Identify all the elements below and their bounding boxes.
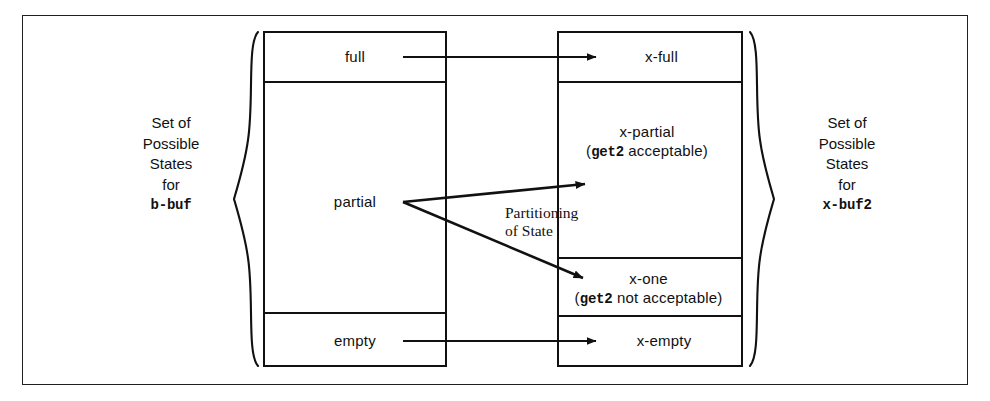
- right-cell-x-partial-label: x-partial: [551, 122, 743, 141]
- right-cell-x-one-note: (get2 not acceptable): [551, 288, 746, 309]
- right-caption-buffer-name: x-buf2: [772, 195, 922, 216]
- left-brace: [234, 32, 258, 366]
- left-cell-empty: empty: [263, 331, 447, 350]
- left-caption-line-1: Set of: [108, 113, 234, 134]
- left-caption-line-4: for: [108, 175, 234, 196]
- right-caption: Set of Possible States for x-buf2: [772, 113, 922, 216]
- right-box-divider-2: [557, 257, 743, 259]
- right-cell-x-empty-label: x-empty: [637, 332, 692, 349]
- left-cell-partial-label: partial: [334, 193, 376, 210]
- left-cell-full-label: full: [345, 48, 365, 65]
- right-cell-x-full-label: x-full: [645, 48, 678, 65]
- right-caption-line-4: for: [772, 175, 922, 196]
- left-caption-line-2: Possible: [108, 134, 234, 155]
- right-cell-x-one-label: x-one: [551, 269, 746, 288]
- left-caption-buffer-name: b-buf: [108, 195, 234, 216]
- partition-note-line-1: Partitioning: [505, 204, 635, 222]
- right-box-divider-1: [557, 81, 743, 83]
- right-cell-x-empty: x-empty: [585, 331, 743, 350]
- diagram-figure: full partial empty x-full x-partial (get…: [0, 0, 990, 401]
- left-caption-line-3: States: [108, 154, 234, 175]
- right-cell-x-partial: x-partial (get2 acceptable): [551, 122, 743, 162]
- partition-note: Partitioning of State: [505, 204, 635, 240]
- x-one-note-mono: get2: [580, 291, 613, 307]
- right-cell-x-partial-note: (get2 acceptable): [551, 141, 743, 162]
- right-brace: [750, 32, 774, 366]
- right-caption-line-1: Set of: [772, 113, 922, 134]
- x-partial-note-rest: acceptable): [624, 142, 708, 159]
- left-cell-full: full: [263, 47, 447, 66]
- x-one-note-rest: not acceptable): [613, 289, 723, 306]
- right-state-box: [557, 31, 743, 367]
- left-cell-partial: partial: [263, 192, 447, 211]
- partition-note-line-2: of State: [505, 222, 635, 240]
- left-box-divider-1: [263, 81, 447, 83]
- x-partial-note-mono: get2: [591, 144, 624, 160]
- right-box-divider-3: [557, 315, 743, 317]
- right-cell-x-full: x-full: [580, 47, 743, 66]
- right-cell-x-one: x-one (get2 not acceptable): [551, 269, 746, 309]
- left-box-divider-2: [263, 312, 447, 314]
- right-caption-line-2: Possible: [772, 134, 922, 155]
- right-caption-line-3: States: [772, 154, 922, 175]
- left-caption: Set of Possible States for b-buf: [108, 113, 234, 216]
- left-cell-empty-label: empty: [334, 332, 376, 349]
